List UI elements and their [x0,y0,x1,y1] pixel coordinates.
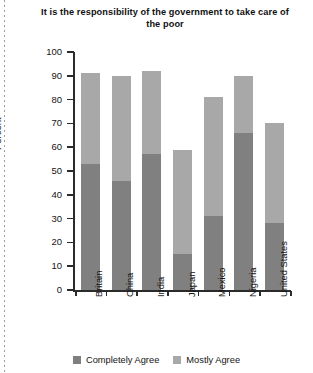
y-axis-label: Percent [0,117,3,150]
y-axis-tick [67,75,74,77]
x-axis-label-britain: Britain [94,271,104,297]
x-axis-tick [75,291,77,296]
bar-segment-completely-agree [234,133,253,290]
y-axis-tick [67,265,74,267]
x-axis-tick [106,291,108,296]
bar-segment-completely-agree [142,154,161,290]
x-axis-tick [259,291,261,296]
x-axis-label-nigeria: Nigeria [248,268,258,297]
y-axis-tick [67,170,74,172]
x-axis-label-united-states: United States [279,241,289,297]
x-axis-label-india: India [156,277,166,297]
bar-mexico [204,97,223,290]
y-axis-tick-label: 40 [16,189,62,200]
legend-item: Mostly Agree [173,355,240,365]
bar-segment-mostly-agree [204,97,223,216]
legend-swatch [173,356,181,364]
bar-india [142,71,161,290]
y-axis-tick-label: 50 [16,165,62,176]
y-axis-tick [67,289,74,291]
bar-segment-mostly-agree [142,71,161,154]
y-axis-tick-label: 100 [16,46,62,57]
y-axis-tick [67,194,74,196]
x-axis-tick [229,291,231,296]
chart-title: It is the responsibility of the governme… [36,6,294,30]
x-axis-tick [290,291,292,296]
y-axis-tick-label: 20 [16,236,62,247]
stacked-bar-chart: It is the responsibility of the governme… [0,0,313,373]
y-axis-tick-label: 0 [16,284,62,295]
y-axis-tick [67,123,74,125]
bar-segment-mostly-agree [112,76,131,181]
x-axis-tick [198,291,200,296]
y-axis-tick [67,146,74,148]
bar-segment-mostly-agree [234,76,253,133]
y-axis-tick-label: 10 [16,260,62,271]
y-axis-tick-label: 90 [16,70,62,81]
y-axis-tick [67,99,74,101]
bar-segment-mostly-agree [81,73,100,163]
bar-segment-mostly-agree [265,123,284,223]
bar-segment-mostly-agree [173,150,192,255]
bar-japan [173,150,192,290]
y-axis-tick [67,242,74,244]
y-axis-tick-label: 80 [16,94,62,105]
x-axis-tick [167,291,169,296]
legend-label: Mostly Agree [186,355,240,365]
y-axis-tick-label: 60 [16,141,62,152]
legend-item: Completely Agree [73,355,159,365]
bar-nigeria [234,76,253,290]
chart-legend: Completely AgreeMostly Agree [0,355,313,365]
y-axis-tick-label: 70 [16,117,62,128]
bar-china [112,76,131,290]
x-axis-label-mexico: Mexico [217,268,227,297]
legend-label: Completely Agree [86,355,159,365]
x-axis-tick [136,291,138,296]
y-axis-tick [67,218,74,220]
y-axis-tick-label: 30 [16,213,62,224]
y-axis-tick [67,51,74,53]
bar-britain [81,73,100,290]
x-axis-label-china: China [125,273,135,297]
legend-swatch [73,356,81,364]
x-axis-label-japan: Japan [187,272,197,297]
